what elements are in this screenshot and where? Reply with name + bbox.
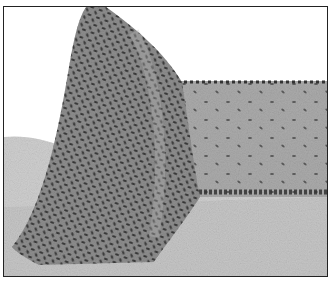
micrograph-illustration — [4, 7, 328, 277]
conical-mound — [12, 7, 200, 265]
image-frame — [3, 6, 328, 277]
raised-slab — [174, 81, 328, 197]
